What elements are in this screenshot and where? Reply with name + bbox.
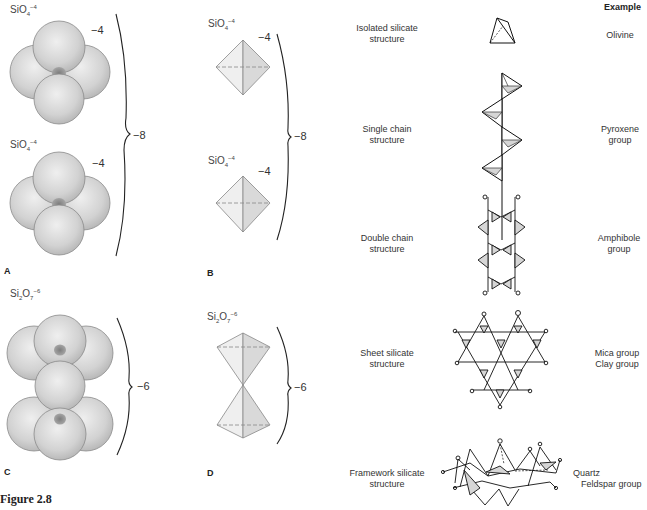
figure-graphics — [0, 0, 647, 510]
example-label-amphibole: Amphibole group — [586, 233, 647, 255]
total-charge-b: −8 — [294, 130, 307, 142]
structure-label-double-chain: Double chain structure — [327, 233, 447, 255]
structure-label-sheet: Sheet silicate structure — [327, 348, 447, 370]
tetrahedron-icon-b2 — [216, 176, 270, 232]
example-label-olivine: Olivine — [590, 30, 647, 41]
panel-letter-c: C — [4, 467, 11, 477]
example-label-pyroxene: Pyroxene group — [590, 124, 647, 146]
charge-label-b1: −4 — [258, 31, 271, 43]
panel-letter-a: A — [4, 266, 11, 276]
panel-letter-b: B — [207, 268, 214, 278]
charge-label-a1: −4 — [91, 24, 104, 36]
isolated-tetrahedron-icon — [490, 18, 515, 43]
total-charge-d: −6 — [294, 381, 307, 393]
sphere-tetrahedron-icon-a1 — [10, 21, 110, 124]
structure-label-isolated: Isolated silicate structure — [327, 23, 447, 45]
formula-sio4-b1: SiO4−4 — [208, 18, 235, 31]
curly-brace-icon-c — [117, 318, 132, 455]
double-tetrahedron-icon-d — [217, 333, 270, 438]
curly-brace-icon-a — [116, 14, 130, 256]
formula-sio4-a2: SiO4−4 — [10, 139, 37, 152]
panel-letter-d: D — [207, 468, 214, 478]
figure-caption: Figure 2.8 — [0, 492, 52, 507]
example-label-mica-clay: Mica group Clay group — [584, 348, 647, 370]
curly-brace-icon-d — [277, 327, 291, 444]
example-column-header: Example — [604, 2, 641, 12]
sheet-silicate-icon — [453, 311, 548, 409]
formula-sio4-b2: SiO4−4 — [208, 155, 235, 168]
formula-si2o7-d: Si2O7−6 — [207, 311, 237, 324]
total-charge-c: −6 — [137, 380, 150, 392]
tetrahedron-icon-b1 — [216, 40, 270, 95]
charge-label-a2: −4 — [92, 157, 105, 169]
structure-label-framework: Framework silicate structure — [327, 468, 447, 490]
example-label-quartz-feldspar: Quartz Feldspar group — [573, 468, 642, 490]
framework-silicate-icon — [441, 439, 561, 506]
curly-brace-icon-b — [277, 34, 291, 240]
sphere-dimer-icon-c — [7, 315, 113, 460]
formula-sio4-a1: SiO4−4 — [10, 4, 37, 17]
formula-si2o7-c: Si2O7−6 — [10, 288, 40, 301]
charge-label-b2: −4 — [258, 165, 271, 177]
structure-label-single-chain: Single chain structure — [327, 124, 447, 146]
total-charge-a: −8 — [133, 129, 146, 141]
